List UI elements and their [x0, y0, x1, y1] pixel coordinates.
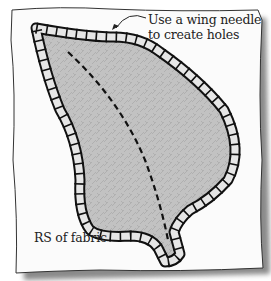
- fabric-side-label: RS of fabric: [34, 230, 107, 245]
- callout-line-1: Use a wing needle: [148, 12, 261, 27]
- diagram-canvas: Use a wing needle to create holes RS of …: [0, 0, 271, 281]
- callout-text: Use a wing needle to create holes: [148, 12, 261, 42]
- callout-line-2: to create holes: [148, 27, 261, 42]
